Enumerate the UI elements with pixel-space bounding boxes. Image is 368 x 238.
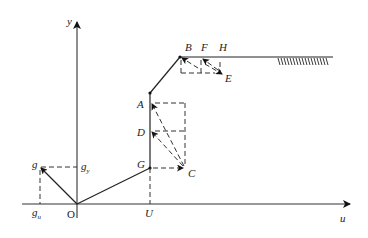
- label-H: H: [218, 41, 228, 53]
- label-B: B: [185, 41, 192, 53]
- label-g-y-sub: y: [86, 167, 91, 175]
- be-construction: [181, 58, 222, 74]
- label-g: g: [32, 158, 38, 170]
- main-path: [77, 55, 333, 204]
- label-E: E: [224, 72, 232, 84]
- label-C: C: [188, 167, 196, 179]
- label-g-u: gu: [32, 206, 42, 221]
- diagram-figure: y u O B F H E A D G C U g gy gu: [0, 0, 368, 238]
- label-F: F: [200, 41, 208, 53]
- label-A: A: [136, 98, 144, 110]
- gc-construction: [150, 103, 185, 204]
- label-g-y: gy: [81, 160, 91, 175]
- label-D: D: [136, 126, 145, 138]
- y-axis-label: y: [66, 15, 72, 27]
- label-g-u-sub: u: [38, 213, 42, 221]
- origin-label: O: [67, 208, 75, 220]
- u-axis-label: u: [340, 212, 346, 224]
- g-vector: [40, 167, 77, 204]
- label-U: U: [145, 207, 154, 219]
- label-G: G: [137, 158, 145, 170]
- wall-hatching: [278, 58, 328, 65]
